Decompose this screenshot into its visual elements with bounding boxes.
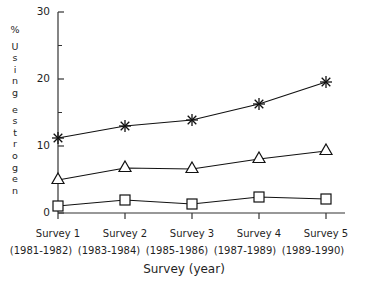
- marker-triangle: [119, 161, 131, 172]
- marker-square: [53, 201, 63, 211]
- x-axis-title: Survey (year): [0, 262, 368, 276]
- marker-square: [254, 192, 264, 202]
- marker-triangle: [320, 144, 332, 155]
- marker-star: [320, 76, 332, 88]
- x-tick-sublabel-survey-5: (1989-1990): [278, 245, 348, 256]
- marker-square: [120, 195, 130, 205]
- star-series-line: [58, 82, 326, 138]
- estrogen-use-line-chart: % U s i n g e s t r o g e n 30 20 10 0: [0, 0, 368, 286]
- marker-star: [52, 132, 64, 144]
- chart-plot-area: [0, 0, 368, 286]
- star-series-markers: [52, 76, 332, 144]
- marker-star: [119, 120, 131, 132]
- triangle-series-markers: [52, 144, 332, 184]
- x-tick-sublabel-survey-4: (1987-1989): [210, 245, 280, 256]
- x-tick-sublabel-survey-3: (1985-1986): [142, 245, 212, 256]
- marker-square: [321, 194, 331, 204]
- marker-triangle: [52, 173, 64, 184]
- x-tick-sublabel-survey-1: (1981-1982): [6, 245, 76, 256]
- marker-star: [253, 98, 265, 110]
- marker-star: [186, 114, 198, 126]
- x-tick-sublabel-survey-2: (1983-1984): [74, 245, 144, 256]
- square-series-markers: [53, 192, 331, 211]
- x-tick-label-survey-5: Survey 5: [286, 228, 366, 239]
- marker-triangle: [253, 152, 265, 163]
- marker-triangle: [186, 162, 198, 173]
- marker-square: [187, 199, 197, 209]
